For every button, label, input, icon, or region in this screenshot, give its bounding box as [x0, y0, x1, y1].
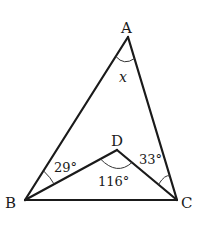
- angle-arc-a: [116, 56, 135, 61]
- angle-label-116: 116°: [98, 174, 129, 189]
- point-label-d: D: [111, 132, 123, 150]
- angle-label-29: 29°: [54, 160, 77, 175]
- angle-label-33: 33°: [139, 152, 162, 167]
- angle-arc-c: [159, 176, 171, 185]
- point-label-c: C: [181, 194, 192, 212]
- point-label-a: A: [120, 19, 132, 37]
- angle-arc-b: [44, 171, 55, 184]
- point-label-b: B: [5, 194, 16, 212]
- angle-arc-d: [101, 159, 133, 168]
- angle-label-x: x: [119, 69, 127, 85]
- geometry-diagram: A B C D x 29° 33° 116°: [0, 0, 214, 228]
